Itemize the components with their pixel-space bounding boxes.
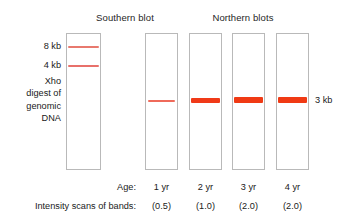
northern-band-4yr — [278, 97, 307, 103]
label-8kb: 8 kb — [0, 40, 61, 53]
intensity-row-label: Intensity scans of bands: — [0, 201, 136, 211]
northern-band-1yr — [148, 100, 175, 102]
label-digest-line-1: Xho — [0, 75, 61, 88]
intensity-value-lane-4: (2.0) — [270, 201, 316, 211]
southern-blot-title: Southern blot — [60, 12, 190, 23]
blot-figure: Southern blot Northern blots 8 kb 4 kb X… — [0, 0, 350, 216]
northern-band-3yr — [234, 97, 263, 103]
age-value-lane-2: 2 yr — [183, 182, 229, 192]
northern-band-2yr — [191, 98, 220, 103]
age-value-lane-1: 1 yr — [139, 182, 185, 192]
southern-band-8kb — [68, 46, 99, 48]
label-digest-line-4: DNA — [0, 112, 61, 125]
northern-blots-title: Northern blots — [178, 12, 308, 23]
intensity-value-lane-2: (1.0) — [183, 201, 229, 211]
label-3kb: 3 kb — [315, 95, 332, 105]
age-value-lane-3: 3 yr — [226, 182, 272, 192]
intensity-value-lane-3: (2.0) — [226, 201, 272, 211]
southern-left-labels: 8 kb 4 kb Xho digest of genomic DNA — [0, 40, 61, 125]
southern-blot-lane — [66, 33, 101, 170]
label-digest-line-3: genomic — [0, 100, 61, 113]
age-row-label: Age: — [0, 182, 136, 192]
label-4kb: 4 kb — [0, 59, 61, 72]
southern-band-4kb — [68, 65, 99, 67]
intensity-value-lane-1: (0.5) — [139, 201, 185, 211]
label-digest-line-2: digest of — [0, 87, 61, 100]
age-value-lane-4: 4 yr — [270, 182, 316, 192]
